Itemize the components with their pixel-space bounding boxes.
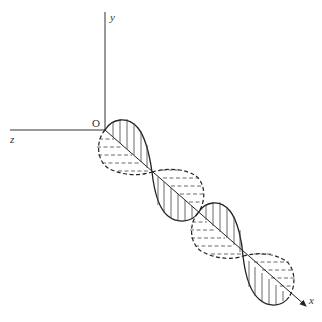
- em-wave-diagram: y z O x: [0, 0, 322, 322]
- origin-label: O: [92, 117, 100, 129]
- y-axis-label: y: [109, 11, 115, 23]
- x-axis-label: x: [308, 294, 314, 306]
- x-axis: [105, 130, 306, 306]
- z-axis-label: z: [9, 133, 15, 145]
- e-field-wave: [105, 120, 289, 305]
- b-field-hatching: [97, 139, 295, 286]
